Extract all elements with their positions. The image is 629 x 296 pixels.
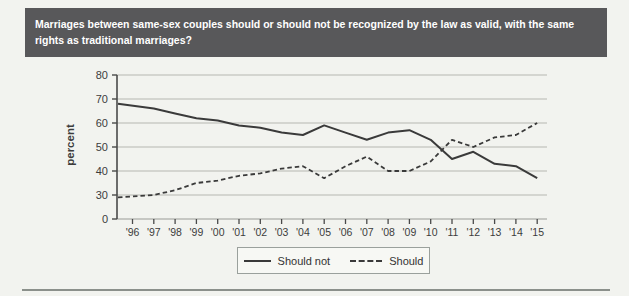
x-tick-label: '99 [190, 226, 204, 238]
x-tick-label: '11 [446, 226, 459, 238]
x-tick-label: '07 [360, 226, 374, 238]
legend-label-should: Should [389, 255, 423, 267]
y-tick-label: 60 [96, 117, 108, 129]
y-axis-title: percent [64, 124, 76, 166]
x-tick-label: '10 [424, 226, 438, 238]
x-tick-label: '02 [253, 226, 267, 238]
y-tick-label: 30 [96, 189, 108, 201]
x-tick-label: '08 [381, 226, 395, 238]
x-tick-label: '13 [488, 226, 502, 238]
x-tick-label: '14 [509, 226, 523, 238]
y-tick-label: 0 [102, 213, 108, 225]
figure-page: Marriages between same-sex couples shoul… [0, 0, 629, 296]
x-tick-label: '09 [403, 226, 417, 238]
x-tick-label: '06 [339, 226, 353, 238]
x-tick-label: '03 [275, 226, 289, 238]
y-tick-label: 80 [96, 69, 108, 81]
question-banner: Marriages between same-sex couples shoul… [25, 8, 607, 57]
y-tick-label: 40 [96, 165, 108, 177]
x-tick-label: '00 [211, 226, 225, 238]
x-tick-label: '97 [147, 226, 161, 238]
x-tick-label: '96 [126, 226, 140, 238]
y-tick-label: 70 [96, 93, 108, 105]
legend-item-should-not: Should not [244, 255, 331, 267]
x-tick-label: '12 [466, 226, 480, 238]
question-text: Marriages between same-sex couples shoul… [35, 18, 574, 46]
page-divider [22, 289, 610, 291]
line-chart: 8070605040300'96'97'98'99'00'01'02'03'04… [0, 60, 629, 246]
data-line-should [118, 123, 537, 197]
chart-area: 8070605040300'96'97'98'99'00'01'02'03'04… [0, 60, 629, 246]
x-tick-label: '01 [232, 226, 246, 238]
legend-label-should-not: Should not [278, 255, 331, 267]
x-tick-label: '04 [296, 226, 310, 238]
chart-legend: Should not Should [237, 247, 430, 274]
data-line-should-not [118, 104, 537, 178]
legend-item-should: Should [350, 255, 423, 267]
x-tick-label: '05 [317, 226, 331, 238]
y-tick-label: 50 [96, 141, 108, 153]
dashed-line-swatch [350, 260, 382, 262]
x-tick-label: '98 [168, 226, 182, 238]
solid-line-swatch [244, 260, 271, 262]
x-tick-label: '15 [530, 226, 544, 238]
